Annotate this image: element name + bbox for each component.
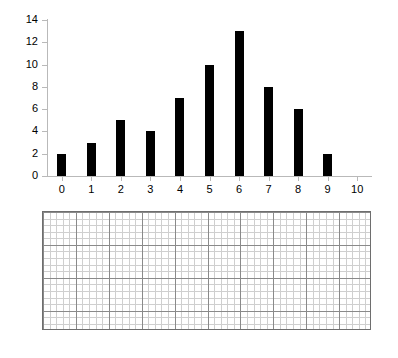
x-axis-tick [180,177,181,181]
x-axis-tick-label: 7 [257,183,281,195]
bar [175,98,184,176]
x-axis-tick-label: 1 [79,183,103,195]
x-axis-tick [150,177,151,181]
y-axis-tick [42,176,47,177]
x-axis-tick [239,177,240,181]
x-axis-tick [298,177,299,181]
x-axis-tick-label: 3 [138,183,162,195]
x-axis-tick [210,177,211,181]
bar [323,154,332,176]
bar [146,131,155,176]
x-axis-tick [121,177,122,181]
bar-chart-figure: 02468101214 012345678910 [0,0,398,200]
x-axis-tick-label: 10 [345,183,369,195]
bar [57,154,66,176]
x-axis-tick-label: 8 [286,183,310,195]
x-axis-tick [91,177,92,181]
bar [205,65,214,176]
x-axis-tick [357,177,358,181]
x-axis-tick-label: 4 [168,183,192,195]
bar [87,143,96,176]
bar [235,31,244,176]
x-axis-tick [269,177,270,181]
bars-layer [0,20,398,176]
bar [264,87,273,176]
x-axis-tick [328,177,329,181]
x-axis-tick-label: 0 [50,183,74,195]
x-axis-tick [62,177,63,181]
x-axis-tick-label: 6 [227,183,251,195]
x-axis-tick-label: 5 [198,183,222,195]
x-axis-tick-label: 2 [109,183,133,195]
x-axis-tick-label: 9 [316,183,340,195]
bar [116,120,125,176]
graph-paper-grid [42,211,371,330]
bar [294,109,303,176]
